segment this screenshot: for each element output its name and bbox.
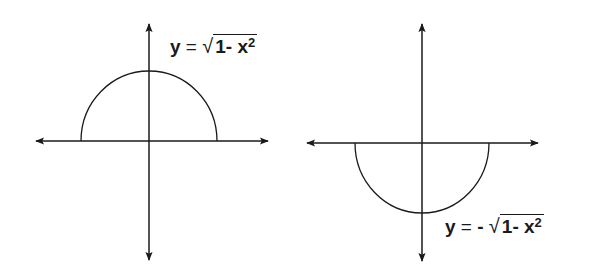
negative-sign: -	[477, 216, 483, 237]
square-root: √1- x2	[489, 214, 544, 236]
upper-semicircle-plot	[36, 24, 268, 260]
equation-lhs: y	[170, 36, 181, 57]
radical-icon: √	[489, 215, 500, 237]
equals-sign: =	[186, 36, 197, 57]
upper-equation-label: y = √1- x2	[170, 34, 257, 56]
lower-equation-label: y = - √1- x2	[445, 214, 544, 236]
equals-sign: =	[461, 216, 472, 237]
diagram-canvas	[0, 0, 595, 279]
exponent: 2	[535, 215, 542, 230]
equation-lhs: y	[445, 216, 456, 237]
radicand: 1- x2	[213, 34, 257, 56]
radical-icon: √	[202, 35, 213, 57]
square-root: √1- x2	[202, 34, 257, 56]
radicand: 1- x2	[500, 214, 544, 236]
exponent: 2	[248, 35, 255, 50]
